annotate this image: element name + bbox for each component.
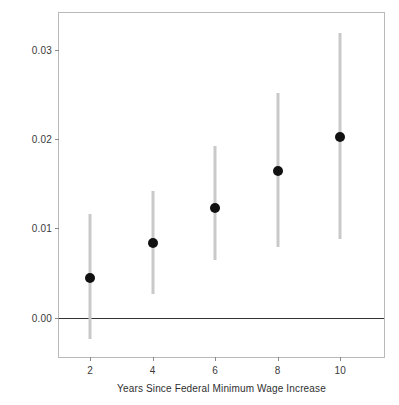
plot-inner: 0.000.010.020.03246810 [59,13,384,357]
data-point [273,166,283,176]
x-axis-tick-label: 10 [334,365,346,376]
chart-figure: 0.000.010.020.03246810 Years Since Feder… [0,0,399,405]
x-axis-tick [340,357,341,361]
x-axis-tick-label: 6 [212,365,218,376]
y-axis-tick-label: 0.02 [32,133,52,144]
y-axis-tick [55,139,59,140]
x-axis-tick [90,357,91,361]
x-axis-tick [278,357,279,361]
x-axis-tick-label: 2 [87,365,93,376]
y-axis-tick-label: 0.01 [32,223,52,234]
plot-area: 0.000.010.020.03246810 [58,12,385,358]
x-axis-tick [215,357,216,361]
zero-reference-line [59,318,384,319]
y-axis-tick-label: 0.00 [32,312,52,323]
x-axis-title: Years Since Federal Minimum Wage Increas… [58,383,385,394]
y-axis-title: Effect of Initiative on State Min. Wage … [7,0,23,44]
x-axis-tick-label: 4 [150,365,156,376]
x-axis-tick-label: 8 [275,365,281,376]
y-axis-tick [55,50,59,51]
y-axis-tick-label: 0.03 [32,44,52,55]
data-point [148,238,158,248]
y-axis-tick [55,228,59,229]
data-point [335,132,345,142]
data-point [85,273,95,283]
x-axis-tick [153,357,154,361]
y-axis-tick [55,318,59,319]
data-point [210,203,220,213]
